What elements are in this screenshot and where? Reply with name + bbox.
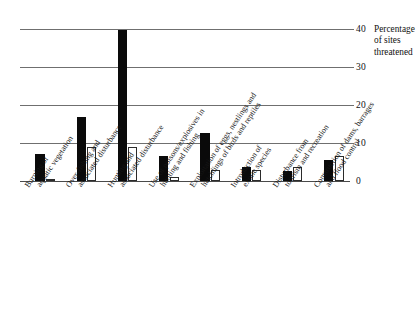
bar-grey-group-2 xyxy=(66,68,75,181)
tick-stub-40 xyxy=(343,29,354,30)
y-axis-title-line1: Percentage xyxy=(374,24,415,34)
tick-stub-20 xyxy=(343,105,354,106)
bar-grey-group-3 xyxy=(108,40,117,181)
bar-chart: 40 30 20 10 0 Percentage of sites threat… xyxy=(0,0,416,317)
y-axis-title-line3: threatened xyxy=(374,47,413,57)
y-axis-title: Percentage of sites threatened xyxy=(374,24,416,58)
y-tick-label-40: 40 xyxy=(356,24,366,34)
y-tick-label-0: 0 xyxy=(356,176,361,186)
tick-stub-30 xyxy=(343,67,354,68)
y-tick-label-30: 30 xyxy=(356,62,366,72)
gridline-40 xyxy=(20,29,350,30)
y-axis-title-line2: of sites xyxy=(374,35,401,45)
